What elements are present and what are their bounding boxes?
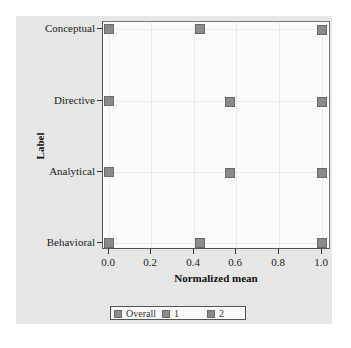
y-label-conceptual: Conceptual	[45, 22, 95, 34]
gridline	[103, 172, 329, 173]
marker-directive-overall	[317, 97, 327, 107]
x-tick-label: 0.4	[178, 256, 208, 268]
x-tick-label: 0.6	[220, 256, 250, 268]
legend-item-2: 2	[207, 308, 224, 319]
legend-item-overall: Overall	[114, 308, 156, 319]
gridline	[103, 29, 329, 30]
x-tick-label: 0.2	[135, 256, 165, 268]
y-label-behavioral: Behavioral	[47, 236, 95, 248]
marker-analytical-series-2	[225, 168, 235, 178]
marker-analytical-series-1	[104, 167, 114, 177]
gridline	[236, 22, 237, 248]
marker-conceptual-series-1	[104, 24, 114, 34]
x-tick	[321, 249, 322, 254]
x-tick-label: 0.8	[263, 256, 293, 268]
gridline	[103, 243, 329, 244]
marker-behavioral-overall	[317, 238, 327, 248]
marker-directive-series-1	[104, 96, 114, 106]
legend-swatch-icon	[162, 310, 170, 318]
marker-behavioral-series-1	[104, 238, 114, 248]
legend-label: Overall	[126, 308, 156, 319]
marker-conceptual-series-2	[195, 24, 205, 34]
plot-area	[102, 21, 330, 249]
legend-label: 1	[174, 308, 179, 319]
x-tick	[193, 249, 194, 254]
gridline	[109, 22, 110, 248]
x-tick	[108, 249, 109, 254]
x-tick-label: 1.0	[306, 256, 336, 268]
x-tick	[278, 249, 279, 254]
legend: Overall 1 2	[110, 306, 246, 320]
legend-item-1: 1	[162, 308, 179, 319]
legend-label: 2	[219, 308, 224, 319]
legend-swatch-icon	[114, 310, 122, 318]
gridline	[103, 101, 329, 102]
x-tick	[150, 249, 151, 254]
marker-behavioral-series-2	[195, 238, 205, 248]
y-label-analytical: Analytical	[49, 165, 95, 177]
x-axis-title: Normalized mean	[102, 272, 330, 284]
y-label-directive: Directive	[54, 94, 95, 106]
marker-analytical-overall	[317, 168, 327, 178]
x-tick-label: 0.0	[93, 256, 123, 268]
marker-directive-series-2	[225, 97, 235, 107]
legend-swatch-icon	[207, 310, 215, 318]
y-axis-title: Label	[34, 126, 46, 166]
marker-conceptual-overall	[317, 25, 327, 35]
gridline	[322, 22, 323, 248]
gridline	[194, 22, 195, 248]
x-tick	[235, 249, 236, 254]
gridline	[151, 22, 152, 248]
gridline	[279, 22, 280, 248]
